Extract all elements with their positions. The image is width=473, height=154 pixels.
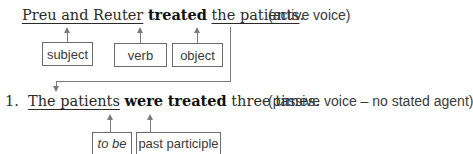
object-label: object — [180, 48, 215, 63]
passive-voice-note: (passive voice – no stated agent) — [268, 93, 473, 109]
passive-verb-to-be: were — [124, 92, 163, 109]
active-voice-note: (active voice) — [268, 7, 350, 23]
active-sentence: Preu and Reuter treated the patients. — [22, 6, 304, 23]
to-be-label-box: to be — [92, 132, 132, 154]
object-arrow-icon — [194, 27, 200, 33]
passive-verb-participle: treated — [168, 92, 227, 109]
subject-arrow-icon — [64, 27, 70, 33]
past-participle-label: past participle — [138, 136, 218, 151]
to-be-arrow-line — [110, 118, 111, 132]
subject-label: subject — [47, 47, 88, 62]
verb-label-box: verb — [114, 43, 167, 67]
passive-subject: The patients — [28, 93, 120, 109]
connector-horizontal-line — [56, 81, 231, 82]
past-participle-label-box: past participle — [136, 132, 221, 154]
to-be-label: to be — [98, 136, 127, 151]
object-label-box: object — [172, 43, 223, 67]
to-be-arrow-icon — [107, 114, 113, 120]
participle-arrow-icon — [147, 114, 153, 120]
participle-arrow-line — [150, 118, 151, 132]
connector-vertical-line — [230, 27, 231, 82]
subject-label-box: subject — [42, 42, 93, 66]
verb-label: verb — [128, 48, 153, 63]
active-verb: treated — [148, 6, 207, 23]
verb-arrow-icon — [137, 27, 143, 33]
active-subject: Preu and Reuter — [22, 7, 143, 23]
passive-number: 1. — [5, 93, 19, 109]
